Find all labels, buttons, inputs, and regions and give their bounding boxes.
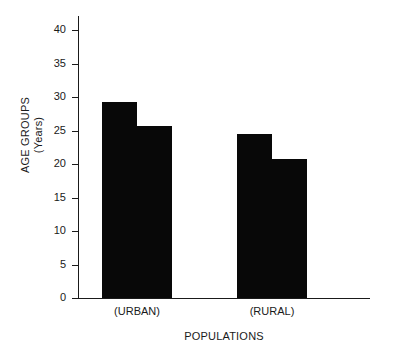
bars-layer [78,16,370,298]
y-axis-tick-label: 25 [0,124,66,136]
y-axis-tick-label: 35 [0,57,66,69]
bar [102,102,137,298]
y-axis-tick-mark [72,298,79,299]
y-axis-tick-label: 20 [0,157,66,169]
y-axis-tick-label: 15 [0,191,66,203]
y-axis-tick-label: 10 [0,224,66,236]
x-axis-line [78,298,370,299]
category-label: (RURAL) [222,305,322,317]
bar [237,134,272,298]
x-axis-title: POPULATIONS [78,330,370,342]
y-axis-tick-label: 40 [0,23,66,35]
y-axis-tick-label: 0 [0,291,66,303]
bar [272,159,307,298]
chart-page: AGE GROUPS (Years) 0510152025303540 (URB… [0,0,402,348]
bar [137,126,172,298]
category-label: (URBAN) [87,305,187,317]
y-axis-tick-label: 5 [0,258,66,270]
y-axis-tick-label: 30 [0,90,66,102]
